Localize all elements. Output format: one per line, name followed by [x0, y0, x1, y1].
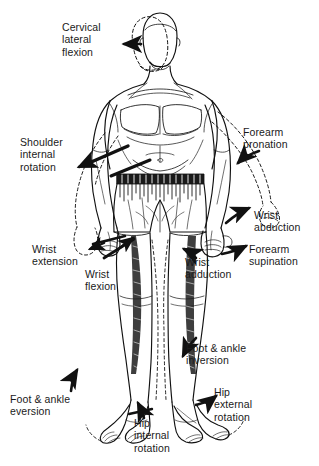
shorts [114, 174, 207, 236]
figure-outline [74, 13, 280, 443]
arrow-forearm-pronation [238, 151, 259, 163]
label-forearm-pronation: Forearm pronation [243, 126, 288, 151]
label-forearm-supination: Forearm supination [249, 243, 298, 268]
label-cervical-lateral-flexion: Cervical lateral flexion [62, 21, 101, 58]
arrow-wrist-abduction [226, 208, 249, 223]
label-shoulder-internal-rotation: Shoulder internal rotation [20, 136, 63, 173]
label-wrist-flexion: Wrist flexion [85, 268, 116, 293]
arrow-hip-external-rotation [196, 396, 216, 405]
leg-rotation-guides [152, 240, 168, 400]
arrow-wrist-flexion [121, 238, 133, 247]
label-foot-ankle-eversion: Foot & ankle eversion [10, 393, 70, 418]
label-hip-external-rotation: Hip external rotation [214, 386, 252, 423]
torso-outline [105, 101, 218, 177]
anatomy-diagram-page: Cervical lateral flexion Shoulder intern… [0, 0, 319, 466]
label-wrist-adduction: Wrist adduction [185, 256, 231, 281]
neck-and-shoulders [110, 66, 212, 101]
label-foot-ankle-inversion: Foot & ankle inversion [186, 342, 246, 367]
label-hip-internal-rotation: Hip internal rotation [134, 417, 170, 454]
label-wrist-abduction: Wrist abduction [254, 209, 300, 234]
arrow-foot-ankle-eversion [71, 370, 77, 391]
label-wrist-extension: Wrist extension [32, 243, 78, 268]
